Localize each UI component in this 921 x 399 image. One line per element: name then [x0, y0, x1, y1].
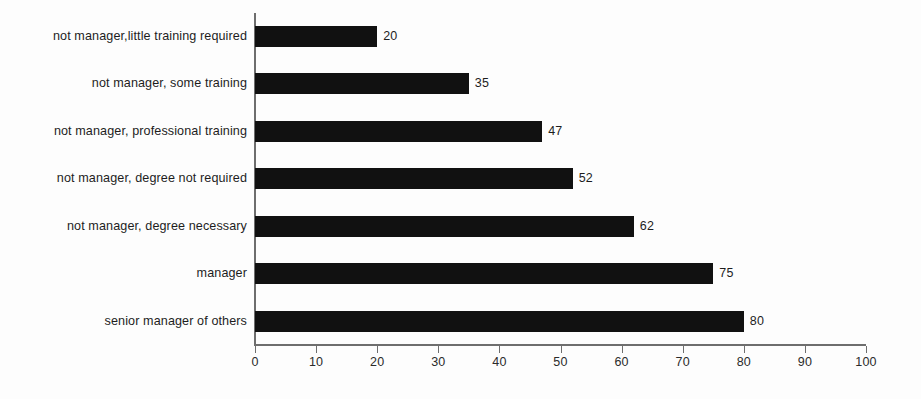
x-axis-tick-label: 100 — [846, 355, 886, 369]
x-axis-tick — [805, 346, 806, 353]
bar-row: not manager,little training required20 — [255, 13, 866, 60]
x-axis-tick — [683, 346, 684, 353]
bar-row: not manager, degree not required52 — [255, 155, 866, 202]
x-axis-tick-label: 90 — [785, 355, 825, 369]
x-axis-tick — [866, 346, 867, 353]
bar-row: senior manager of others80 — [255, 298, 866, 345]
bar-value-label: 75 — [713, 263, 733, 284]
bar-value-label: 80 — [744, 311, 764, 332]
bar-value-label: 47 — [542, 121, 562, 142]
x-axis-tick — [622, 346, 623, 353]
bar — [255, 216, 634, 237]
x-axis-tick — [255, 346, 256, 353]
category-label: senior manager of others — [0, 311, 247, 332]
category-label: not manager, degree necessary — [0, 216, 247, 237]
category-label: not manager, professional training — [0, 121, 247, 142]
plot-area: not manager,little training required20no… — [255, 13, 866, 345]
category-label: not manager,little training required — [0, 26, 247, 47]
x-axis-tick-label: 10 — [296, 355, 336, 369]
category-label: manager — [0, 263, 247, 284]
category-label: not manager, degree not required — [0, 168, 247, 189]
x-axis-tick-label: 20 — [357, 355, 397, 369]
x-axis-tick — [316, 346, 317, 353]
x-axis-tick-label: 40 — [479, 355, 519, 369]
bar-chart: 0102030405060708090100 not manager,littl… — [0, 0, 921, 399]
x-axis-tick-label: 50 — [541, 355, 581, 369]
bar-row: manager75 — [255, 250, 866, 297]
x-axis-tick — [438, 346, 439, 353]
x-axis-tick-label: 30 — [418, 355, 458, 369]
bar — [255, 263, 713, 284]
bar-value-label: 35 — [469, 73, 489, 94]
bar-value-label: 52 — [573, 168, 593, 189]
bar — [255, 311, 744, 332]
x-axis-tick — [744, 346, 745, 353]
category-label: not manager, some training — [0, 73, 247, 94]
x-axis-tick — [499, 346, 500, 353]
x-axis-tick-label: 80 — [724, 355, 764, 369]
x-axis-tick-label: 60 — [602, 355, 642, 369]
bar-row: not manager, professional training47 — [255, 108, 866, 155]
bar — [255, 26, 377, 47]
bar-row: not manager, some training35 — [255, 60, 866, 107]
bar-value-label: 62 — [634, 216, 654, 237]
x-axis-tick-label: 70 — [663, 355, 703, 369]
x-axis-tick — [561, 346, 562, 353]
bar — [255, 168, 573, 189]
bar-value-label: 20 — [377, 26, 397, 47]
bar — [255, 121, 542, 142]
bar-row: not manager, degree necessary62 — [255, 203, 866, 250]
bar — [255, 73, 469, 94]
x-axis-tick — [377, 346, 378, 353]
x-axis-tick-label: 0 — [235, 355, 275, 369]
